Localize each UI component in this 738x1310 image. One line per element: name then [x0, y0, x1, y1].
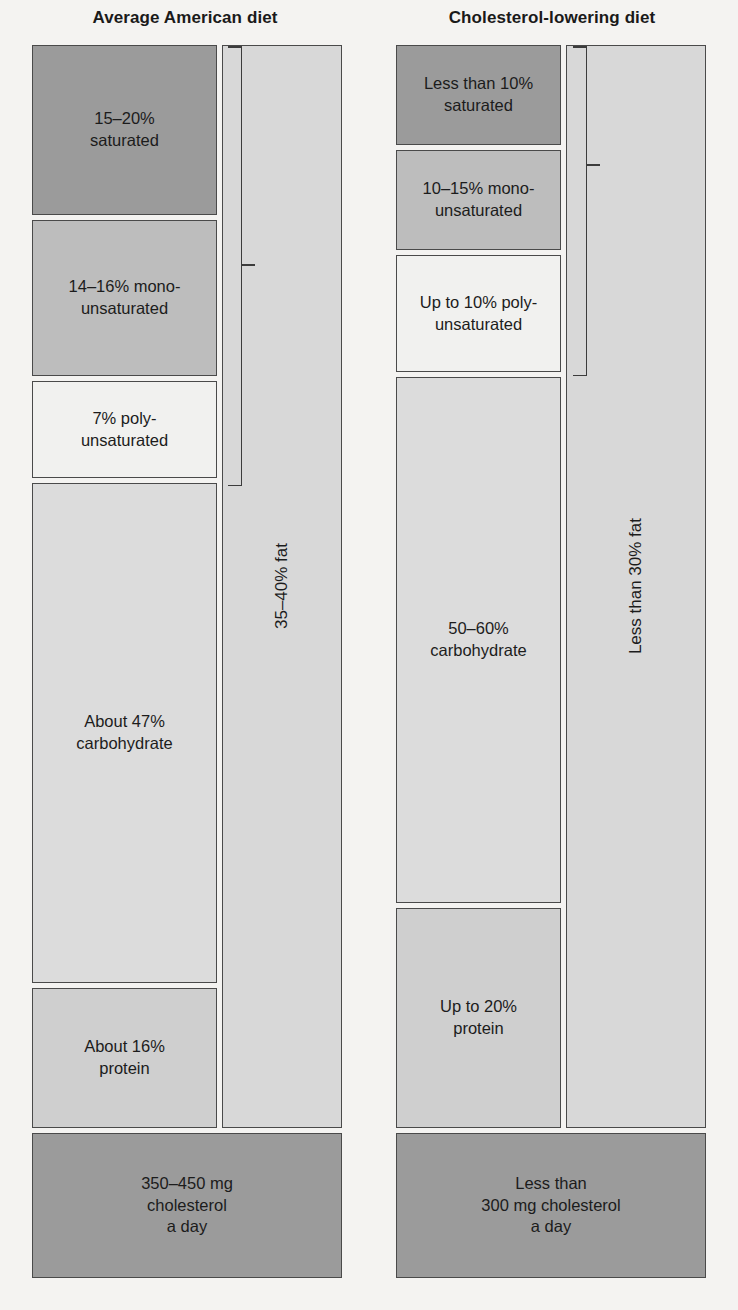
right-cholesterol-line1: Less than: [481, 1173, 620, 1195]
right-column-title: Cholesterol-lowering diet: [395, 8, 709, 28]
right-segment-polyunsaturated: Up to 10% poly- unsaturated: [396, 255, 561, 372]
right-fat-bracket-spine: [586, 46, 588, 376]
right-segment-protein: Up to 20% protein: [396, 908, 561, 1128]
left-segment-saturated-line2: saturated: [90, 130, 159, 152]
left-segment-monounsaturated: 14–16% mono- unsaturated: [32, 220, 217, 376]
left-fat-bracket-arm-top: [228, 46, 242, 48]
left-cholesterol-box: 350–450 mg cholesterol a day: [32, 1133, 342, 1278]
diet-comparison-infographic: Average American diet 15–20% saturated 1…: [0, 0, 738, 1310]
left-segment-protein: About 16% protein: [32, 988, 217, 1128]
left-fat-bracket-tick: [242, 264, 255, 266]
right-segment-protein-line2: protein: [440, 1018, 517, 1040]
left-segment-carbohydrate-line1: About 47%: [76, 711, 172, 733]
left-fat-bracket-arm-bottom: [228, 485, 242, 487]
right-fat-bracket-arm-bottom: [573, 375, 587, 377]
right-segment-polyunsaturated-line1: Up to 10% poly-: [420, 292, 537, 314]
left-fat-bracket-spine: [241, 46, 243, 486]
left-fat-bracket: [228, 46, 242, 486]
right-segment-monounsaturated: 10–15% mono- unsaturated: [396, 150, 561, 250]
left-segment-saturated: 15–20% saturated: [32, 45, 217, 215]
left-segment-saturated-line1: 15–20%: [90, 108, 159, 130]
left-cholesterol-line2: cholesterol: [141, 1195, 233, 1217]
right-cholesterol-line3: a day: [481, 1216, 620, 1238]
left-segment-carbohydrate: About 47% carbohydrate: [32, 483, 217, 983]
right-segment-polyunsaturated-line2: unsaturated: [420, 314, 537, 336]
left-segment-polyunsaturated-line2: unsaturated: [81, 430, 168, 452]
left-segment-carbohydrate-line2: carbohydrate: [76, 733, 172, 755]
left-fat-bar-label: 35–40% fat: [272, 543, 292, 629]
right-segment-saturated-line1: Less than 10%: [424, 73, 533, 95]
right-cholesterol-box: Less than 300 mg cholesterol a day: [396, 1133, 706, 1278]
left-segment-protein-line1: About 16%: [84, 1036, 165, 1058]
right-segment-carbohydrate-line2: carbohydrate: [430, 640, 526, 662]
left-segment-protein-line2: protein: [84, 1058, 165, 1080]
right-segment-monounsaturated-line2: unsaturated: [423, 200, 535, 222]
left-segment-polyunsaturated-line1: 7% poly-: [81, 408, 168, 430]
left-segment-polyunsaturated: 7% poly- unsaturated: [32, 381, 217, 478]
left-segment-monounsaturated-line2: unsaturated: [69, 298, 181, 320]
right-segment-saturated-line2: saturated: [424, 95, 533, 117]
right-segment-protein-line1: Up to 20%: [440, 996, 517, 1018]
left-column-title: Average American diet: [28, 8, 342, 28]
right-segment-carbohydrate-line1: 50–60%: [430, 618, 526, 640]
right-segment-monounsaturated-line1: 10–15% mono-: [423, 178, 535, 200]
left-cholesterol-line3: a day: [141, 1216, 233, 1238]
right-segment-carbohydrate: 50–60% carbohydrate: [396, 377, 561, 903]
left-segment-monounsaturated-line1: 14–16% mono-: [69, 276, 181, 298]
right-fat-bar: Less than 30% fat: [566, 45, 706, 1128]
right-fat-bracket-tick: [587, 164, 600, 166]
right-fat-bracket-arm-top: [573, 46, 587, 48]
right-segment-saturated: Less than 10% saturated: [396, 45, 561, 145]
right-cholesterol-line2: 300 mg cholesterol: [481, 1195, 620, 1217]
left-cholesterol-line1: 350–450 mg: [141, 1173, 233, 1195]
right-fat-bracket: [573, 46, 587, 376]
right-fat-bar-label: Less than 30% fat: [626, 518, 646, 654]
